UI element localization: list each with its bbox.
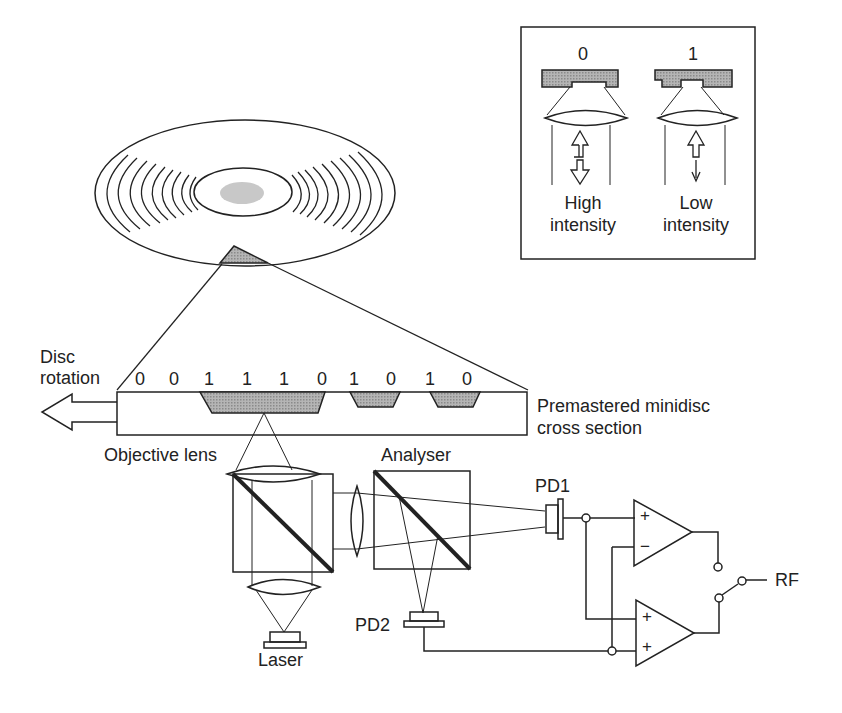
lens-icon	[658, 111, 737, 126]
pd1-icon	[546, 505, 558, 533]
bit-9: 0	[457, 369, 477, 390]
bit-4: 1	[274, 369, 294, 390]
amp1-plus: +	[640, 506, 650, 526]
inset-bit-one: 1	[683, 44, 703, 64]
pd2-icon	[410, 612, 438, 621]
collimator-lens-icon	[248, 580, 320, 595]
disc-rotation-line1: Disc	[40, 347, 75, 367]
inset-bit-zero: 0	[573, 44, 593, 64]
amp2-plus-b: +	[642, 637, 652, 657]
diagram-canvas	[0, 0, 842, 713]
cross-section-label-line1: Premastered minidisc	[537, 396, 710, 416]
pd1-label: PD1	[535, 476, 570, 496]
bit-8: 1	[420, 369, 440, 390]
arrow-down-icon	[571, 160, 589, 184]
relay-lens-icon	[351, 486, 363, 556]
switch-icon	[722, 584, 738, 595]
bit-6: 1	[344, 369, 364, 390]
amp2-plus-a: +	[642, 607, 652, 627]
laser-label: Laser	[258, 650, 303, 670]
rf-output-label: RF	[775, 570, 799, 590]
pit-one-icon	[655, 70, 732, 87]
pd2-label: PD2	[355, 615, 390, 635]
arrow-up-icon	[572, 131, 588, 157]
lens-icon	[545, 111, 627, 126]
cross-section-label-line2: cross section	[537, 418, 642, 438]
laser-icon	[270, 632, 300, 642]
rotation-arrow-icon	[42, 394, 117, 430]
low-intensity-line2: intensity	[651, 215, 741, 235]
pit-zero-icon	[542, 70, 618, 87]
arrow-up-icon	[688, 131, 704, 157]
amp1-minus: −	[640, 537, 650, 557]
disc-rotation-line2: rotation	[40, 368, 100, 388]
analyser-label: Analyser	[381, 445, 451, 465]
bit-2: 1	[199, 369, 219, 390]
bit-0: 0	[130, 369, 150, 390]
objective-lens-label: Objective lens	[104, 445, 217, 465]
cross-section-bar	[117, 392, 527, 435]
low-intensity-line1: Low	[651, 193, 741, 213]
bit-1: 0	[164, 369, 184, 390]
high-intensity-line1: High	[538, 193, 628, 213]
high-intensity-line2: intensity	[538, 215, 628, 235]
bit-7: 0	[381, 369, 401, 390]
bit-3: 1	[237, 369, 257, 390]
bit-5: 0	[312, 369, 332, 390]
minidisc-icon	[95, 120, 395, 266]
